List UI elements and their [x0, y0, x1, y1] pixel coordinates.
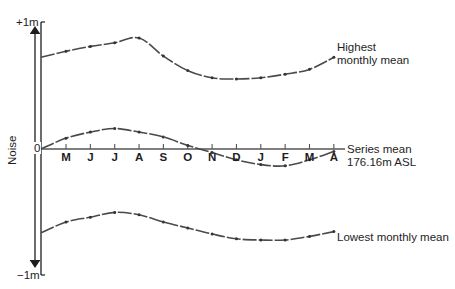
data-point — [113, 41, 116, 44]
data-point — [89, 45, 92, 48]
data-point — [65, 50, 68, 53]
x-tick-label: O — [181, 151, 195, 163]
data-point — [259, 238, 262, 241]
x-tick-label: D — [229, 151, 243, 163]
x-tick-label: A — [132, 151, 146, 163]
data-point — [186, 69, 189, 72]
data-point — [138, 37, 141, 40]
data-point — [65, 221, 68, 224]
x-tick-label: M — [303, 151, 317, 163]
y-tick-zero: 0 — [33, 142, 41, 154]
data-point — [211, 232, 214, 235]
data-point — [308, 235, 311, 238]
series-label-mean-line2: 176.16m ASL — [347, 156, 416, 169]
data-point — [162, 135, 165, 138]
x-tick-label: A — [327, 151, 341, 163]
data-point — [211, 76, 214, 79]
x-tick-label: J — [108, 151, 122, 163]
x-tick-label: N — [205, 151, 219, 163]
data-point — [113, 127, 116, 130]
series-label-mean: Series mean 176.16m ASL — [347, 143, 416, 169]
data-point — [89, 131, 92, 134]
data-point — [186, 227, 189, 230]
series-label-lowest: Lowest monthly mean — [337, 231, 449, 244]
data-point — [162, 221, 165, 224]
data-point — [332, 56, 335, 59]
series-label-highest-line1: Highest — [337, 41, 409, 54]
y-tick-plus-1m: +1m — [16, 16, 39, 28]
data-point — [89, 216, 92, 219]
series-lowest-monthly-mean — [41, 212, 334, 240]
data-point — [113, 211, 116, 214]
data-point — [259, 163, 262, 166]
series-highest-monthly-mean — [41, 37, 334, 79]
data-point — [308, 68, 311, 71]
data-point — [284, 164, 287, 167]
data-point — [259, 76, 262, 79]
data-point — [284, 238, 287, 241]
data-point — [65, 137, 68, 140]
x-tick-label: J — [83, 151, 97, 163]
data-point — [186, 144, 189, 147]
x-tick-label: S — [156, 151, 170, 163]
series-label-mean-line1: Series mean — [347, 143, 416, 156]
data-point — [162, 55, 165, 58]
x-tick-label: M — [59, 151, 73, 163]
series-lines — [41, 37, 335, 242]
series-label-highest-line2: monthly mean — [337, 54, 409, 67]
x-tick-label: J — [254, 151, 268, 163]
data-point — [138, 131, 141, 134]
data-point — [235, 237, 238, 240]
x-tick-label: F — [278, 151, 292, 163]
y-tick-minus-1m: −1m — [17, 269, 40, 281]
data-point — [332, 230, 335, 233]
data-point — [138, 213, 141, 216]
series-label-lowest-line1: Lowest monthly mean — [337, 231, 449, 244]
y-axis-label: Noise — [6, 136, 18, 165]
series-label-highest: Highest monthly mean — [337, 41, 409, 67]
data-point — [235, 78, 238, 81]
data-point — [284, 73, 287, 76]
